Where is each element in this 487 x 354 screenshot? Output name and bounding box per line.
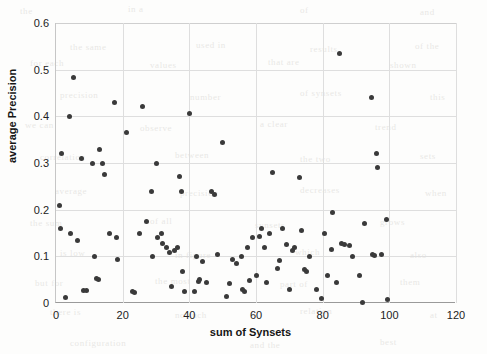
scatter-point xyxy=(362,221,367,226)
scatter-point xyxy=(177,174,182,179)
x-axis-tick-label: 100 xyxy=(380,309,398,321)
x-axis-tick-label: 20 xyxy=(117,309,129,321)
scatter-point xyxy=(245,245,250,250)
scatter-point xyxy=(114,235,119,240)
x-axis-tick-label: 80 xyxy=(317,309,329,321)
scatter-point xyxy=(372,253,377,258)
scatter-point xyxy=(247,278,252,283)
scatter-point xyxy=(257,234,262,239)
scatter-point xyxy=(292,245,297,250)
x-gridline xyxy=(189,23,190,303)
scatter-point xyxy=(264,280,269,285)
scatter-point xyxy=(275,266,280,271)
x-gridline xyxy=(389,23,390,303)
scatter-point xyxy=(92,254,97,259)
scatter-point xyxy=(319,296,324,301)
scatter-point xyxy=(90,161,95,166)
scatter-point xyxy=(132,290,137,295)
scatter-point xyxy=(79,156,84,161)
scatter-point xyxy=(155,235,160,240)
scatter-point xyxy=(115,257,120,262)
scatter-point xyxy=(375,165,380,170)
scatter-point xyxy=(224,294,229,299)
scatter-point xyxy=(197,277,202,282)
y-axis-tick-label: 0.6 xyxy=(34,17,49,29)
x-axis-label-text: sum of Synsets xyxy=(196,326,291,338)
scatter-point xyxy=(287,287,292,292)
scatter-point xyxy=(384,217,389,222)
scatter-point xyxy=(140,104,145,109)
scatter-point xyxy=(57,203,62,208)
scatter-point xyxy=(180,269,185,274)
scatter-point xyxy=(307,254,312,259)
scatter-point xyxy=(357,273,362,278)
x-axis-tick-label: 40 xyxy=(183,309,195,321)
scatter-point xyxy=(374,151,379,156)
scatter-point xyxy=(96,277,101,282)
scatter-point xyxy=(71,75,76,80)
scatter-point xyxy=(220,140,225,145)
bleedthrough-word: and the xyxy=(250,340,280,350)
scatter-point xyxy=(334,280,339,285)
y-axis-label: average Precision xyxy=(6,69,18,163)
x-gridline xyxy=(456,23,457,303)
bleedthrough-word: configuration xyxy=(70,338,126,348)
plot-area: 00.10.20.30.40.50.6020406080100120 xyxy=(55,23,455,303)
scatter-point xyxy=(182,289,187,294)
scatter-point xyxy=(329,247,334,252)
scatter-point xyxy=(347,243,352,248)
scatter-point xyxy=(169,284,174,289)
x-gridline xyxy=(323,23,324,303)
scatter-point xyxy=(59,151,64,156)
scatter-point xyxy=(234,261,239,266)
scatter-point xyxy=(212,192,217,197)
x-gridline xyxy=(256,23,257,303)
scatter-point xyxy=(325,273,330,278)
scatter-point xyxy=(277,258,282,263)
scatter-point xyxy=(322,231,327,236)
scatter-point xyxy=(75,238,80,243)
scatter-point xyxy=(200,259,205,264)
bleedthrough-word: of xyxy=(300,5,309,15)
x-axis-tick-label: 120 xyxy=(447,309,465,321)
scatter-point xyxy=(175,245,180,250)
scatter-point xyxy=(304,269,309,274)
scatter-point xyxy=(192,289,197,294)
y-axis-tick-label: 0.1 xyxy=(34,250,49,262)
scatter-point xyxy=(280,226,285,231)
y-axis-tick-label: 0.2 xyxy=(34,204,49,216)
scatter-point xyxy=(149,189,154,194)
scatter-point xyxy=(179,189,184,194)
scatter-point xyxy=(259,226,264,231)
bleedthrough-word: the xyxy=(20,6,33,16)
bleedthrough-word: in a xyxy=(128,4,144,14)
scatter-point xyxy=(330,210,335,215)
scatter-point xyxy=(267,231,272,236)
scatter-point xyxy=(297,175,302,180)
scatter-point xyxy=(97,147,102,152)
scatter-point xyxy=(350,254,355,259)
scatter-point xyxy=(63,295,68,300)
bleedthrough-word: best xyxy=(380,337,397,347)
scatter-point xyxy=(239,254,244,259)
scatter-point xyxy=(194,254,199,259)
scatter-point xyxy=(154,161,159,166)
x-gridline xyxy=(123,23,124,303)
scatter-point xyxy=(137,231,142,236)
scatter-point xyxy=(68,231,73,236)
scatter-point xyxy=(369,95,374,100)
scatter-point xyxy=(124,130,129,135)
scatter-chart-figure: thein aofandthe sameused inresultsof the… xyxy=(0,0,487,354)
scatter-point xyxy=(250,235,255,240)
scatter-point xyxy=(84,288,89,293)
scatter-point xyxy=(360,300,365,305)
scatter-point xyxy=(227,281,232,286)
scatter-point xyxy=(385,297,390,302)
y-axis-tick-label: 0 xyxy=(43,297,49,309)
scatter-point xyxy=(102,172,107,177)
scatter-point xyxy=(187,111,192,116)
scatter-point xyxy=(150,254,155,259)
bleedthrough-word: at xyxy=(430,310,438,320)
x-axis-label: sum of Synsets xyxy=(0,326,487,338)
scatter-point xyxy=(270,170,275,175)
